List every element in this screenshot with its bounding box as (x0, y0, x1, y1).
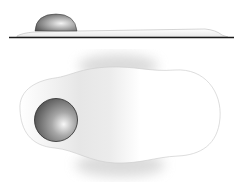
top-view (20, 54, 220, 177)
yolk-top (35, 99, 78, 142)
side-view (9, 14, 234, 38)
fried-egg-diagram (0, 0, 240, 190)
yolk-side (35, 14, 77, 31)
